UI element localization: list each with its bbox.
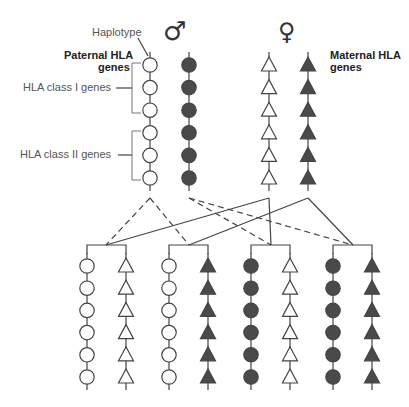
open-triangle-gene-icon — [262, 147, 277, 161]
open-circle-gene-icon — [80, 370, 94, 384]
paternal-label-line2: genes — [98, 61, 130, 74]
filled-circle-gene-icon — [326, 325, 340, 339]
maternal-1-to-child-1 — [106, 198, 269, 245]
filled-circle-gene-icon — [244, 259, 258, 273]
filled-circle-gene-icon — [244, 325, 258, 339]
filled-triangle-gene-icon — [301, 125, 316, 139]
open-circle-gene-icon — [143, 171, 157, 185]
open-circle-gene-icon — [162, 303, 176, 317]
open-circle-gene-icon — [80, 325, 94, 339]
open-triangle-gene-icon — [262, 170, 277, 184]
child-3-bracket — [251, 245, 290, 254]
filled-circle-gene-icon — [182, 80, 196, 94]
filled-triangle-gene-icon — [201, 280, 216, 294]
hla-class-1-label: HLA class I genes — [23, 81, 111, 94]
open-circle-gene-icon — [80, 259, 94, 273]
filled-circle-gene-icon — [182, 171, 196, 185]
open-circle-gene-icon — [162, 325, 176, 339]
filled-triangle-gene-icon — [301, 102, 316, 116]
filled-triangle-gene-icon — [301, 147, 316, 161]
filled-triangle-gene-icon — [365, 325, 380, 339]
open-circle-gene-icon — [143, 58, 157, 72]
filled-circle-gene-icon — [326, 370, 340, 384]
filled-circle-gene-icon — [244, 303, 258, 317]
filled-circle-gene-icon — [326, 281, 340, 295]
open-circle-gene-icon — [143, 103, 157, 117]
filled-circle-gene-icon — [244, 348, 258, 362]
open-circle-gene-icon — [143, 148, 157, 162]
open-triangle-gene-icon — [262, 125, 277, 139]
open-circle-gene-icon — [162, 281, 176, 295]
open-triangle-gene-icon — [283, 302, 298, 316]
filled-triangle-gene-icon — [301, 57, 316, 71]
open-circle-gene-icon — [162, 259, 176, 273]
filled-triangle-gene-icon — [301, 170, 316, 184]
open-triangle-gene-icon — [119, 369, 134, 383]
filled-triangle-gene-icon — [365, 302, 380, 316]
filled-triangle-gene-icon — [201, 258, 216, 272]
haplotype-pointer-line — [138, 38, 148, 56]
filled-triangle-gene-icon — [201, 347, 216, 361]
filled-circle-gene-icon — [326, 303, 340, 317]
filled-triangle-gene-icon — [201, 325, 216, 339]
open-circle-gene-icon — [80, 348, 94, 362]
open-triangle-gene-icon — [119, 325, 134, 339]
open-triangle-gene-icon — [283, 347, 298, 361]
filled-circle-gene-icon — [182, 148, 196, 162]
filled-triangle-gene-icon — [301, 80, 316, 94]
filled-circle-gene-icon — [182, 126, 196, 140]
open-triangle-gene-icon — [262, 57, 277, 71]
filled-circle-gene-icon — [182, 103, 196, 117]
open-circle-gene-icon — [80, 281, 94, 295]
paternal-1-to-child-1 — [106, 198, 150, 245]
open-triangle-gene-icon — [119, 280, 134, 294]
filled-circle-gene-icon — [244, 370, 258, 384]
open-triangle-gene-icon — [283, 258, 298, 272]
open-triangle-gene-icon — [283, 369, 298, 383]
open-triangle-gene-icon — [119, 302, 134, 316]
open-triangle-gene-icon — [262, 102, 277, 116]
filled-triangle-gene-icon — [365, 280, 380, 294]
child-2-bracket — [169, 245, 208, 254]
open-circle-gene-icon — [162, 370, 176, 384]
hla-class-2-label: HLA class II genes — [20, 148, 111, 161]
haplotype-label: Haplotype — [92, 26, 142, 39]
maternal-label-line2: genes — [330, 61, 362, 74]
child-1-bracket — [87, 245, 126, 254]
filled-circle-gene-icon — [326, 259, 340, 273]
filled-triangle-gene-icon — [201, 369, 216, 383]
open-circle-gene-icon — [162, 348, 176, 362]
open-circle-gene-icon — [80, 303, 94, 317]
open-circle-gene-icon — [143, 80, 157, 94]
open-triangle-gene-icon — [283, 280, 298, 294]
filled-triangle-gene-icon — [365, 369, 380, 383]
filled-triangle-gene-icon — [201, 302, 216, 316]
filled-circle-gene-icon — [326, 348, 340, 362]
maternal-2-to-child-4 — [308, 198, 353, 245]
open-circle-gene-icon — [143, 126, 157, 140]
paternal-1-to-child-2 — [150, 198, 189, 245]
open-triangle-gene-icon — [283, 325, 298, 339]
open-triangle-gene-icon — [119, 258, 134, 272]
male-symbol-icon: ♂ — [163, 18, 186, 44]
class-2-bracket — [132, 131, 141, 180]
open-triangle-gene-icon — [262, 80, 277, 94]
hla-inheritance-diagram: Haplotype Paternal HLA genes Maternal HL… — [0, 0, 409, 407]
open-triangle-gene-icon — [119, 347, 134, 361]
female-symbol-icon: ♀ — [278, 20, 296, 44]
child-4-bracket — [333, 245, 372, 254]
paternal-2-to-child-3 — [189, 198, 271, 245]
filled-circle-gene-icon — [244, 281, 258, 295]
filled-triangle-gene-icon — [365, 347, 380, 361]
class-1-bracket — [132, 63, 141, 113]
filled-circle-gene-icon — [182, 58, 196, 72]
filled-triangle-gene-icon — [365, 258, 380, 272]
maternal-2-to-child-2 — [189, 198, 308, 245]
